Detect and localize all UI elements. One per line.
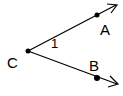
- ray-cb: [28, 51, 117, 84]
- angle-label-1: 1: [51, 36, 58, 51]
- angle-diagram: C A B 1: [0, 0, 123, 96]
- label-a: A: [100, 21, 110, 38]
- label-c: C: [7, 54, 18, 71]
- point-c: [26, 49, 31, 54]
- label-b: B: [89, 57, 99, 74]
- point-b: [94, 75, 100, 81]
- point-a: [95, 13, 100, 18]
